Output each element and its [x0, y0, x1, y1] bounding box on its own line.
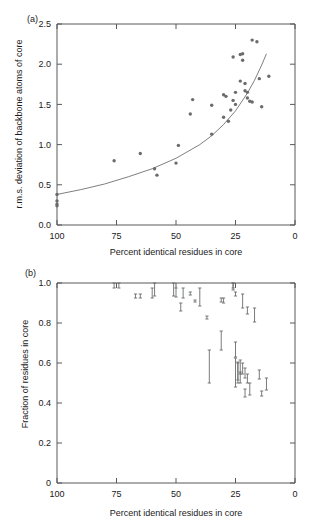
error-bar: [182, 288, 185, 298]
panel-b-y-axis-title: Fraction of residues in core: [20, 320, 30, 429]
y-tick-label: 1.5: [38, 100, 51, 110]
x-tick-label: 50: [171, 489, 181, 499]
data-point: [234, 103, 237, 106]
panel-a-label: (a): [27, 14, 38, 24]
panel-b-xtick-labels: 1007550250: [49, 489, 297, 499]
y-tick-label: 0: [46, 478, 51, 488]
data-point: [246, 96, 249, 99]
error-bar: [113, 283, 116, 288]
panel-a-axes: [57, 24, 295, 225]
panel-a-fit-curve: [57, 54, 266, 195]
error-bar: [253, 308, 256, 322]
error-bar: [241, 294, 244, 308]
error-bar: [258, 370, 261, 379]
y-tick-label: 0.5: [38, 180, 51, 190]
error-bar: [117, 283, 120, 288]
panel-b-x-axis-title: Percent identical residues in core: [110, 508, 243, 518]
error-bar: [151, 288, 154, 298]
panel-b-axes: [57, 283, 295, 483]
panel-a-ytick-labels: 0.00.51.01.52.02.5: [38, 19, 51, 230]
error-bar: [243, 368, 246, 378]
panel-a-svg: (a) 0.00.51.01.52.02.5 1007550250 Percen…: [0, 0, 313, 264]
x-tick-label: 100: [49, 489, 64, 499]
data-point: [234, 91, 237, 94]
error-bar: [220, 331, 223, 350]
data-point: [112, 159, 115, 162]
fit-curve-path: [57, 54, 266, 195]
data-point: [241, 58, 244, 61]
error-bar: [260, 391, 263, 396]
y-tick-label: 0.0: [38, 220, 51, 230]
y-tick-label: 1.0: [38, 278, 51, 288]
data-point: [243, 82, 246, 85]
data-point: [177, 144, 180, 147]
panel-b-error-bars: [113, 283, 269, 397]
data-point: [246, 91, 249, 94]
data-point: [222, 116, 225, 119]
x-tick-label: 50: [171, 231, 181, 241]
y-tick-label: 1.0: [38, 140, 51, 150]
data-point: [55, 199, 58, 202]
error-bar: [153, 283, 156, 296]
data-point: [250, 100, 253, 103]
data-point: [224, 95, 227, 98]
data-point: [55, 204, 58, 207]
panel-a-frame: [57, 24, 295, 225]
data-point: [153, 167, 156, 170]
data-point: [227, 120, 230, 123]
data-point: [260, 105, 263, 108]
error-bar: [134, 294, 137, 298]
data-point: [174, 161, 177, 164]
data-point: [155, 173, 158, 176]
y-tick-label: 2.5: [38, 19, 51, 29]
error-bar: [220, 298, 223, 302]
data-point: [239, 79, 242, 82]
error-bar: [189, 292, 192, 295]
panel-b: (b) 00.20.40.60.81.0 1007550250 Percent …: [0, 264, 313, 528]
x-tick-label: 25: [230, 489, 240, 499]
error-bar: [205, 316, 208, 319]
x-tick-label: 75: [111, 231, 121, 241]
data-point: [267, 75, 270, 78]
panel-a: (a) 0.00.51.01.52.02.5 1007550250 Percen…: [0, 0, 313, 264]
error-bar: [198, 288, 201, 306]
y-tick-label: 2.0: [38, 59, 51, 69]
panel-a-xtick-labels: 1007550250: [49, 231, 297, 241]
data-point: [191, 98, 194, 101]
panel-a-x-axis-title: Percent identical residues in core: [110, 247, 243, 257]
data-point: [241, 52, 244, 55]
error-bar: [232, 283, 235, 290]
error-bar: [243, 389, 246, 397]
error-bar: [248, 383, 251, 395]
panel-b-frame: [57, 283, 295, 483]
error-bar: [234, 292, 237, 296]
panel-b-svg: (b) 00.20.40.60.81.0 1007550250 Percent …: [0, 264, 313, 528]
data-point: [139, 152, 142, 155]
panel-a-y-axis-title: r.m.s. deviation of backbone atoms of co…: [14, 39, 24, 208]
error-bar: [208, 350, 211, 383]
x-tick-label: 0: [292, 489, 297, 499]
error-bar: [246, 307, 249, 314]
y-tick-label: 0.8: [38, 318, 51, 328]
panel-a-datapoints: [55, 38, 270, 207]
data-point: [189, 112, 192, 115]
data-point: [250, 38, 253, 41]
data-point: [258, 77, 261, 80]
error-bar: [234, 342, 237, 357]
data-point: [210, 104, 213, 107]
data-point: [55, 193, 58, 196]
error-bar: [265, 378, 268, 390]
data-point: [231, 55, 234, 58]
x-tick-label: 75: [111, 489, 121, 499]
data-point: [229, 108, 232, 111]
error-bar: [139, 294, 142, 298]
x-tick-label: 25: [230, 231, 240, 241]
error-bar: [193, 300, 196, 302]
figure-container: (a) 0.00.51.01.52.02.5 1007550250 Percen…: [0, 0, 313, 528]
y-tick-label: 0.2: [38, 438, 51, 448]
error-bar: [179, 303, 182, 311]
data-point: [210, 132, 213, 135]
panel-b-ytick-labels: 00.20.40.60.81.0: [38, 278, 51, 488]
error-bar: [172, 283, 175, 296]
x-tick-label: 100: [49, 231, 64, 241]
